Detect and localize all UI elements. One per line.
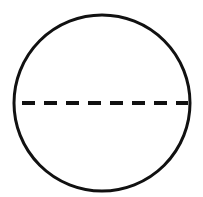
circle-diagram xyxy=(0,0,203,197)
diagram-canvas xyxy=(0,0,203,197)
